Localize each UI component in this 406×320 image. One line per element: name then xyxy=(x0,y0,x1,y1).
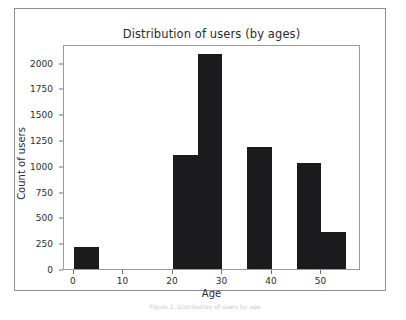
x-axis-tick-label: 30 xyxy=(216,276,227,286)
x-axis-tick-mark xyxy=(271,270,272,274)
histogram-bar xyxy=(297,163,322,269)
y-axis: Count of users 0250500750100012501500175… xyxy=(0,45,63,271)
x-axis-tick-mark xyxy=(122,270,123,274)
y-axis-tick-label: 1500 xyxy=(30,110,53,120)
y-axis-tick-label: 1000 xyxy=(30,162,53,172)
x-axis-tick-mark xyxy=(221,270,222,274)
y-axis-tick-label: 500 xyxy=(36,213,53,223)
y-axis-tick-label: 0 xyxy=(47,265,53,275)
x-axis-tick-mark xyxy=(320,270,321,274)
histogram-bar xyxy=(321,232,346,269)
y-axis-tick-label: 2000 xyxy=(30,59,53,69)
x-axis-tick-mark xyxy=(73,270,74,274)
y-axis-tick-label: 250 xyxy=(36,239,53,249)
plot-area xyxy=(63,45,360,270)
x-axis-tick-label: 50 xyxy=(315,276,326,286)
x-axis-tick-label: 40 xyxy=(265,276,276,286)
chart-title: Distribution of users (by ages) xyxy=(63,27,360,41)
x-axis-label: Age xyxy=(63,288,360,299)
y-axis-tick-label: 750 xyxy=(36,188,53,198)
histogram-figure: Distribution of users (by ages) Count of… xyxy=(0,0,406,320)
x-axis-tick-label: 0 xyxy=(70,276,76,286)
x-axis-tick-label: 20 xyxy=(166,276,177,286)
histogram-bar xyxy=(198,54,223,269)
y-axis-label: Count of users xyxy=(16,94,27,234)
bars-layer xyxy=(64,46,359,269)
x-axis-tick-mark xyxy=(172,270,173,274)
y-axis-tick-label: 1250 xyxy=(30,136,53,146)
figure-caption: Figure 1. Distribution of users by age xyxy=(95,303,315,310)
x-axis-tick-label: 10 xyxy=(117,276,128,286)
histogram-bar xyxy=(74,247,99,270)
histogram-bar xyxy=(247,147,272,269)
histogram-bar xyxy=(173,155,198,269)
screenshot-page: Distribution of users (by ages) Count of… xyxy=(0,0,406,320)
y-axis-tick-label: 1750 xyxy=(30,84,53,94)
